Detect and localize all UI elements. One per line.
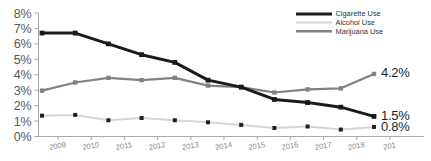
y-tick-label: 6% [14,37,32,51]
data-point [73,113,77,117]
x-tick-label: 2014 [214,140,232,152]
chart-canvas: 8%7%6%5%4%3%2%1%0% 200920102011201220132… [0,0,431,161]
data-point [140,116,144,120]
x-tick-label: 2018 [347,140,365,152]
data-point [305,100,310,105]
x-tick-label: 2012 [148,140,166,152]
data-point [139,78,143,82]
data-point [372,114,377,119]
data-point [206,78,211,83]
series-alcohol-use [40,113,376,132]
data-point [206,83,210,87]
x-tick-label: 2013 [181,140,199,152]
y-axis-ticks [35,13,39,137]
y-tick-label: 5% [14,53,32,67]
x-tick-label: 2009 [48,140,66,152]
y-tick-label: 1% [14,115,32,129]
data-point [339,128,343,132]
data-point [305,87,309,91]
y-tick-label: 7% [14,22,32,36]
series-layer [40,31,377,132]
data-point [106,76,110,80]
x-axis-tick-labels: 2009201020112012201320142015201620172018… [48,140,396,152]
x-tick-label: 201 [382,140,396,151]
data-point [106,118,110,122]
series-line [42,74,374,93]
data-point [40,88,44,92]
y-tick-label: 4% [14,68,32,82]
x-tick-label: 2015 [248,140,266,152]
data-point [272,97,277,102]
data-point [40,31,45,36]
data-point [40,114,44,118]
data-point [339,86,343,90]
data-point [172,60,177,65]
x-tick-label: 2011 [115,140,133,152]
x-axis-ticks [58,137,390,141]
data-point [73,80,77,84]
data-point [73,31,78,36]
line-chart: 8%7%6%5%4%3%2%1%0% 200920102011201220132… [0,0,431,161]
x-tick-label: 2016 [281,140,299,152]
data-point [338,105,343,110]
legend-item-marijuana-use[interactable]: Marijuana Use [296,27,383,36]
data-point [139,52,144,57]
x-tick-label: 2017 [314,140,332,152]
data-point [239,85,244,90]
data-point [306,124,310,128]
data-point [272,126,276,130]
y-tick-label: 3% [14,84,32,98]
y-axis-tick-labels: 8%7%6%5%4%3%2%1%0% [14,7,32,145]
series-end-labels: 4.2%1.5%0.8% [381,65,410,134]
data-point [372,125,376,129]
series-cigarette-use [40,31,377,119]
y-tick-label: 8% [14,7,32,21]
data-point [173,118,177,122]
series-marijuana-use [40,72,376,95]
data-point [106,41,111,46]
legend-label: Marijuana Use [336,27,384,36]
x-tick-label: 2010 [82,140,100,152]
y-tick-label: 2% [14,99,32,113]
data-point [173,76,177,80]
series-line [42,33,374,116]
data-point [239,123,243,127]
end-label-alcohol: 0.8% [381,119,410,134]
data-point [206,120,210,124]
chart-legend: Cigarette UseAlcohol UseMarijuana Use [296,9,383,35]
end-label-marijuana: 4.2% [381,65,410,80]
y-tick-label: 0% [14,130,32,144]
data-point [372,72,376,76]
data-point [272,90,276,94]
